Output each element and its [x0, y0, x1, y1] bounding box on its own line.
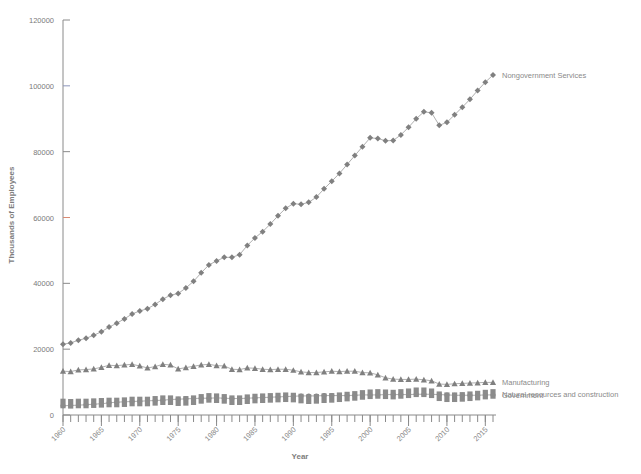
marker-square — [298, 394, 303, 404]
marker-square — [406, 388, 411, 398]
marker-square — [421, 387, 426, 397]
marker-square — [306, 394, 311, 404]
marker-square — [490, 389, 495, 399]
y-tick-label-20000: 20000 — [33, 345, 54, 354]
marker-square — [199, 394, 204, 404]
marker-square — [214, 393, 219, 403]
marker-square — [291, 393, 296, 403]
marker-square — [391, 390, 396, 400]
marker-square — [375, 389, 380, 399]
marker-square — [352, 391, 357, 401]
marker-square — [191, 395, 196, 405]
marker-square — [176, 396, 181, 406]
y-tick-label-0: 0 — [50, 411, 54, 420]
marker-square — [321, 393, 326, 403]
y-tick-label-80000: 80000 — [33, 148, 54, 157]
marker-square — [137, 397, 142, 407]
marker-square — [360, 390, 365, 400]
marker-square — [60, 399, 65, 409]
marker-square — [160, 395, 165, 405]
marker-square — [483, 390, 488, 400]
marker-square — [106, 398, 111, 408]
marker-square — [206, 393, 211, 403]
marker-square — [145, 397, 150, 407]
series-label-natural-resources-and-construction: Natural resources and construction — [502, 390, 618, 399]
y-axis-title: Thousands of Employees — [7, 166, 16, 263]
marker-square — [337, 392, 342, 402]
marker-square — [437, 391, 442, 401]
y-tick-label-100000: 100000 — [29, 82, 54, 91]
marker-square — [368, 389, 373, 399]
marker-square — [268, 393, 273, 403]
marker-square — [260, 393, 265, 403]
chart-figure: 020000400006000080000100000120000 196019… — [0, 0, 641, 474]
marker-square — [168, 395, 173, 405]
marker-square — [122, 397, 127, 407]
marker-square — [245, 394, 250, 404]
y-tick-label-120000: 120000 — [29, 16, 54, 25]
marker-square — [314, 394, 319, 404]
marker-square — [91, 398, 96, 408]
marker-square — [153, 396, 158, 406]
marker-square — [275, 393, 280, 403]
marker-square — [383, 389, 388, 399]
marker-square — [452, 392, 457, 402]
marker-square — [398, 389, 403, 399]
employment-line-chart: 020000400006000080000100000120000 196019… — [0, 0, 641, 474]
marker-square — [429, 388, 434, 398]
marker-square — [345, 392, 350, 402]
marker-square — [237, 395, 242, 405]
marker-square — [114, 398, 119, 408]
marker-square — [460, 392, 465, 402]
marker-square — [130, 397, 135, 407]
marker-square — [83, 399, 88, 409]
marker-square — [252, 394, 257, 404]
marker-square — [183, 396, 188, 406]
marker-square — [329, 393, 334, 403]
marker-square — [414, 387, 419, 397]
y-tick-label-40000: 40000 — [33, 279, 54, 288]
marker-square — [222, 394, 227, 404]
marker-square — [283, 392, 288, 402]
series-label-nongovernment-services: Nongovernment Services — [502, 71, 586, 80]
marker-square — [76, 399, 81, 409]
marker-square — [229, 395, 234, 405]
x-axis-title: Year — [292, 452, 309, 461]
series-label-manufacturing: Manufacturing — [502, 378, 550, 387]
y-tick-label-60000: 60000 — [33, 214, 54, 223]
marker-square — [68, 399, 73, 409]
marker-square — [99, 398, 104, 408]
marker-square — [444, 392, 449, 402]
marker-square — [467, 391, 472, 401]
marker-square — [475, 391, 480, 401]
